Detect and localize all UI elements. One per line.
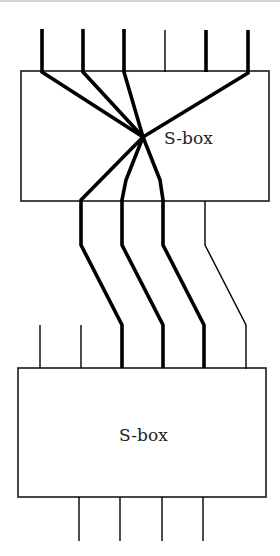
sbox-2-label: S-box	[119, 425, 168, 445]
sbox-1-label: S-box	[164, 128, 213, 148]
wire-mid-4	[205, 201, 246, 369]
sbox-diagram: S-boxS-box	[0, 0, 280, 556]
